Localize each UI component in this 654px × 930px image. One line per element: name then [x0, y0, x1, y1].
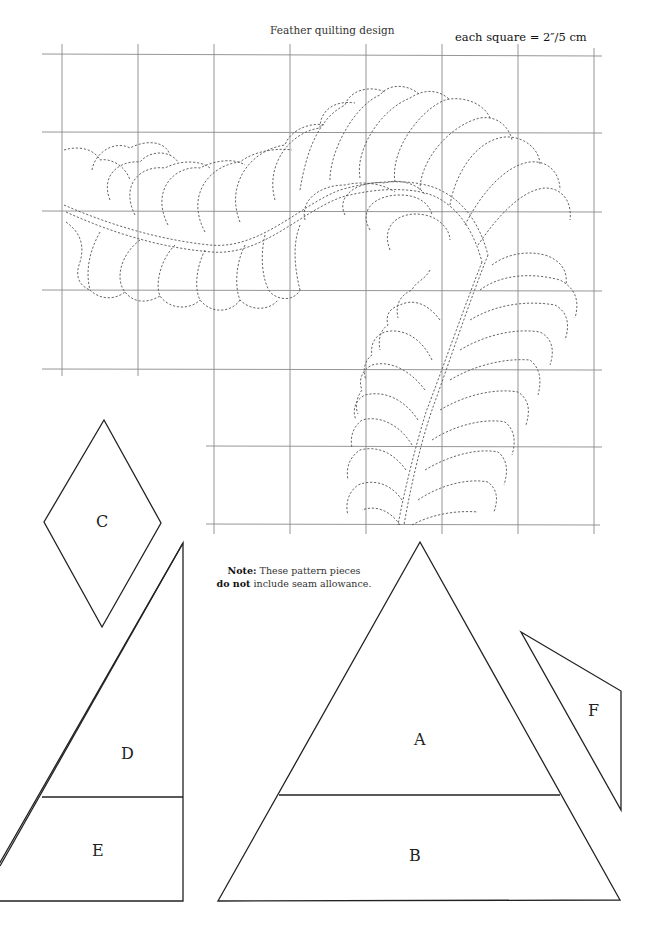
note-bold-2: do not [217, 578, 251, 589]
grid-lines [42, 44, 602, 534]
seam-allowance-note: Note: These pattern pieces do not includ… [214, 564, 374, 590]
note-line-2: do not include seam allowance. [214, 577, 374, 590]
note-text-1: These pattern pieces [257, 565, 361, 576]
piece-label-e: E [92, 841, 104, 860]
feather-quilting-grid [0, 0, 654, 540]
note-text-2: include seam allowance. [251, 578, 372, 589]
piece-label-c: C [96, 512, 108, 531]
piece-label-f: F [588, 701, 599, 720]
piece-label-d: D [121, 744, 134, 763]
piece-label-a: A [414, 730, 426, 749]
piece-label-b: B [409, 846, 421, 865]
note-bold-lead: Note: [228, 565, 257, 576]
feather-stitch-lines [64, 86, 577, 525]
note-line-1: Note: These pattern pieces [214, 564, 374, 577]
piece-d-hypotenuse [0, 543, 183, 866]
piece-f-shape [521, 632, 621, 810]
